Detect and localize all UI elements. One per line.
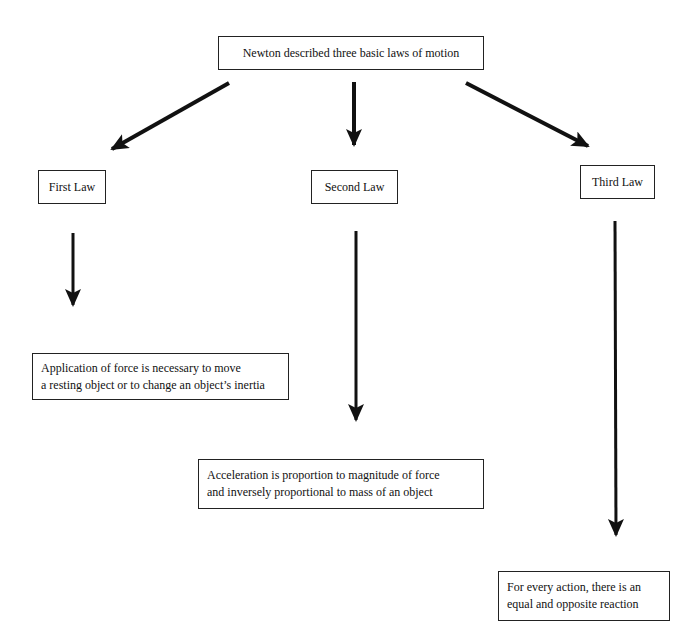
second-law-node: Second Law [311,170,398,204]
root-label: Newton described three basic laws of mot… [243,45,460,62]
arrow-third-law-to-description [615,221,616,535]
second-law-desc-line-2: and inversely proportional to mass of an… [207,484,440,501]
first-law-description: Application of force is necessary to mov… [32,353,289,400]
first-law-desc-line-2: a resting object or to change an object’… [41,377,265,394]
arrow-root-to-third-law [466,83,588,146]
second-law-desc-line-1: Acceleration is proportion to magnitude … [207,467,440,484]
third-law-title: Third Law [592,174,643,191]
third-law-desc-line-1: For every action, there is an [507,579,641,596]
third-law-node: Third Law [580,165,655,199]
arrow-root-to-first-law [112,83,229,149]
first-law-desc-line-1: Application of force is necessary to mov… [41,360,265,377]
second-law-title: Second Law [325,179,385,196]
root-node: Newton described three basic laws of mot… [218,36,484,70]
third-law-description: For every action, there is an equal and … [498,571,670,621]
second-law-description: Acceleration is proportion to magnitude … [198,459,484,509]
arrow-layer [0,0,699,636]
first-law-title: First Law [49,179,95,196]
third-law-desc-line-2: equal and opposite reaction [507,596,641,613]
first-law-node: First Law [38,170,106,204]
